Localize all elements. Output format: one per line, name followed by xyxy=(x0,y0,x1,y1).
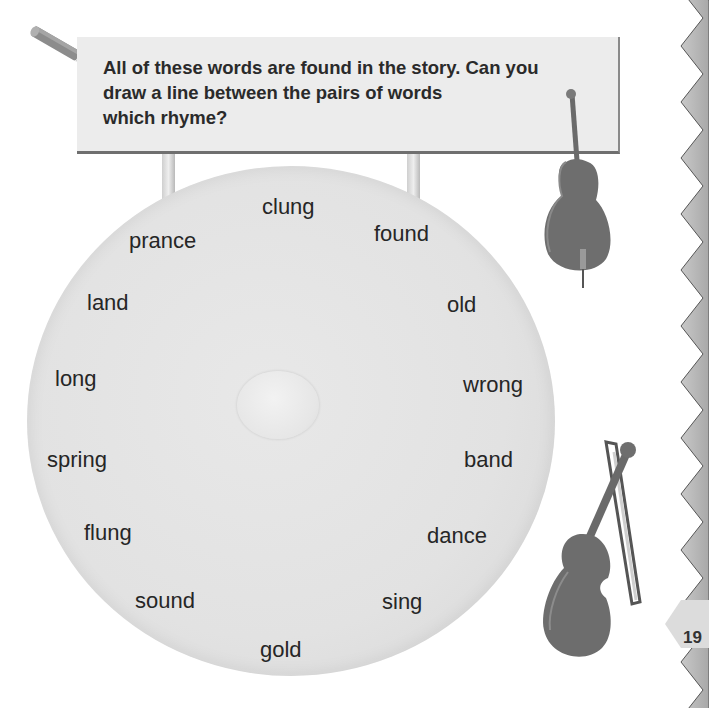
instruction-line-3: which rhyme? xyxy=(103,105,563,130)
worksheet-page: All of these words are found in the stor… xyxy=(0,0,709,708)
gong-center-boss xyxy=(237,371,319,439)
zigzag-page-border xyxy=(659,0,709,708)
double-bass-icon xyxy=(536,84,616,294)
rhyme-word-dance[interactable]: dance xyxy=(427,523,487,549)
rhyme-word-sound[interactable]: sound xyxy=(135,588,195,614)
rhyme-word-land[interactable]: land xyxy=(87,290,129,316)
instruction-text: All of these words are found in the stor… xyxy=(103,55,563,130)
instruction-line-1: All of these words are found in the stor… xyxy=(103,55,563,80)
page-number: 19 xyxy=(683,628,702,648)
rhyme-word-sing[interactable]: sing xyxy=(382,589,422,615)
rhyme-word-spring[interactable]: spring xyxy=(47,447,107,473)
rhyme-word-gold[interactable]: gold xyxy=(260,637,302,663)
rhyme-word-clung[interactable]: clung xyxy=(262,194,315,220)
rhyme-word-old[interactable]: old xyxy=(447,292,476,318)
rhyme-word-band[interactable]: band xyxy=(464,447,513,473)
rhyme-word-long[interactable]: long xyxy=(55,366,97,392)
violin-icon xyxy=(528,432,648,668)
instruction-line-2: draw a line between the pairs of words xyxy=(103,80,563,105)
rhyme-word-flung[interactable]: flung xyxy=(84,520,132,546)
rhyme-word-prance[interactable]: prance xyxy=(129,228,196,254)
rhyme-word-found[interactable]: found xyxy=(374,221,429,247)
rhyme-word-wrong[interactable]: wrong xyxy=(463,372,523,398)
